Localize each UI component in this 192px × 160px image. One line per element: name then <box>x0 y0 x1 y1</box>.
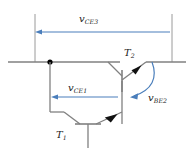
label-vce1-subscript: CE1 <box>74 87 88 94</box>
vce1-arrow <box>51 95 118 100</box>
label-t1-subscript: 1 <box>63 134 67 141</box>
label-t2-subscript: 2 <box>131 52 135 59</box>
label-transistor-t2: T2 <box>124 48 135 58</box>
vce3-arrow <box>35 30 170 35</box>
label-vbe2-subscript: BE2 <box>154 97 168 104</box>
circuit-diagram: vCE3 vCE1 vBE2 T2 T1 <box>0 0 192 160</box>
label-vce3: vCE3 <box>79 14 98 24</box>
label-t2-symbol: T <box>124 47 131 58</box>
label-transistor-t1: T1 <box>56 130 67 140</box>
label-vce3-symbol: v <box>79 13 85 24</box>
label-vce3-subscript: CE3 <box>85 18 99 25</box>
transistor-t1 <box>64 112 122 148</box>
label-vce1: vCE1 <box>68 83 87 93</box>
label-vce1-symbol: v <box>68 82 74 93</box>
label-vbe2-symbol: v <box>148 92 154 103</box>
label-t1-symbol: T <box>56 129 63 140</box>
label-vbe2: vBE2 <box>148 93 167 103</box>
